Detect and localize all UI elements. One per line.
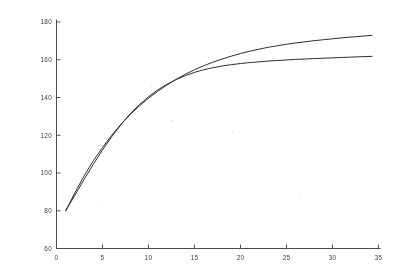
x-tick-label: 15 (191, 254, 199, 261)
x-tick-label: 30 (329, 254, 337, 261)
x-tick-label: 5 (101, 254, 105, 261)
y-tick-label: 160 (40, 56, 52, 63)
x-tick-label: 0 (55, 254, 59, 261)
y-tick-label: 100 (40, 169, 52, 176)
y-tick-label: 180 (40, 18, 52, 25)
line-chart-svg: 6080100120140160180 05101520253035 (0, 0, 402, 275)
chart-figure: 6080100120140160180 05101520253035 (0, 0, 402, 275)
chart-background (0, 0, 402, 275)
y-tick-label: 120 (40, 132, 52, 139)
x-tick-label: 25 (283, 254, 291, 261)
x-tick-label: 35 (375, 254, 383, 261)
y-tick-label: 80 (44, 207, 52, 214)
y-tick-label: 60 (44, 245, 52, 252)
x-tick-label: 20 (237, 254, 245, 261)
y-tick-label: 140 (40, 94, 52, 101)
x-tick-label: 10 (145, 254, 153, 261)
